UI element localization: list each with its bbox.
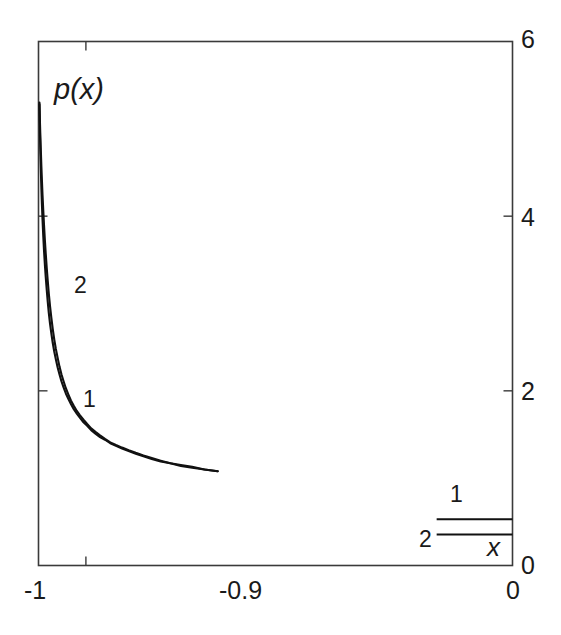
curve-label-2: 2 (74, 274, 87, 297)
data-curves (39, 103, 217, 472)
legend-lines (437, 519, 513, 534)
x-tick-label-0: 0 (506, 578, 520, 603)
axis-ticks (39, 42, 513, 566)
y-tick-label-6: 6 (521, 27, 535, 52)
curve-label-1: 1 (83, 388, 96, 411)
legend-label-1: 1 (450, 483, 463, 506)
plot-frame (39, 42, 513, 566)
chart-figure: 6 4 2 0 -1 -0.9 0 p(x) x 2 1 1 2 (0, 0, 561, 635)
y-axis-title: p(x) (54, 75, 104, 104)
y-tick-label-0: 0 (521, 553, 535, 578)
curve-2 (39, 103, 217, 472)
y-tick-label-2: 2 (521, 379, 535, 404)
y-tick-label-4: 4 (521, 205, 535, 230)
curve-1 (39, 104, 217, 471)
legend-label-2: 2 (419, 528, 432, 551)
x-tick-label-neg1: -1 (24, 578, 46, 603)
x-axis-title: x (487, 534, 500, 560)
x-tick-label-neg09: -0.9 (219, 578, 262, 603)
